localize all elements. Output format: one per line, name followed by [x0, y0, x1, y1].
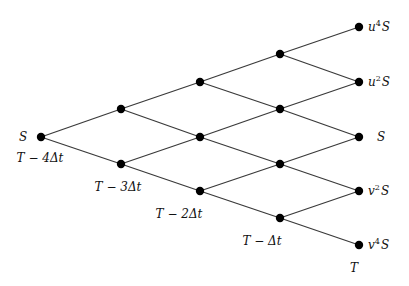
tree-edge — [200, 137, 280, 164]
tree-node-l2-0 — [196, 78, 204, 86]
tree-node-l2-2 — [196, 187, 204, 195]
tree-node-l3-0 — [276, 50, 284, 58]
tree-edge — [280, 82, 359, 109]
time-label: T — [350, 261, 359, 275]
terminal-value-label: u4S — [368, 19, 390, 34]
tree-edge — [200, 54, 280, 82]
time-label: T − 2Δt — [156, 207, 203, 221]
tree-node-l4-2 — [355, 133, 363, 141]
tree-edge — [200, 164, 280, 191]
tree-node-l4-4 — [355, 241, 363, 249]
tree-node-l2-1 — [196, 133, 204, 141]
terminal-labels: u4Su2SSv2Sv4S — [368, 19, 390, 252]
tree-edge — [280, 218, 359, 245]
root-label: S — [19, 130, 27, 144]
tree-edge — [121, 137, 200, 164]
tree-edge — [280, 27, 359, 54]
tree-edge — [280, 54, 359, 82]
tree-edge — [280, 137, 359, 164]
tree-node-l1-1 — [117, 160, 125, 168]
tree-edge — [200, 82, 280, 109]
tree-node-l3-1 — [276, 105, 284, 113]
tree-edge — [280, 109, 359, 137]
terminal-value-label: S — [377, 130, 385, 144]
time-label: T − 4Δt — [17, 151, 64, 165]
tree-node-l4-0 — [355, 23, 363, 31]
terminal-value-label: v4S — [368, 237, 389, 252]
tree-node-l4-3 — [355, 187, 363, 195]
tree-node-l3-2 — [276, 160, 284, 168]
time-label: T − 3Δt — [95, 180, 142, 194]
tree-edge — [200, 109, 280, 137]
tree-edge — [121, 109, 200, 137]
tree-node-l4-1 — [355, 78, 363, 86]
tree-node-l0-0 — [37, 133, 45, 141]
time-label: T − Δt — [242, 234, 281, 248]
tree-edge — [200, 191, 280, 218]
time-labels: T − 4ΔtT − 3ΔtT − 2ΔtT − ΔtT — [17, 151, 359, 275]
binomial-tree-diagram: S T − 4ΔtT − 3ΔtT − 2ΔtT − ΔtT u4Su2SSv2… — [0, 0, 409, 286]
tree-edge — [41, 109, 121, 137]
terminal-value-label: v2S — [368, 183, 389, 198]
tree-node-l3-3 — [276, 214, 284, 222]
terminal-value-label: u2S — [368, 74, 390, 89]
tree-edge — [121, 82, 200, 109]
tree-edge — [280, 191, 359, 218]
tree-node-l1-0 — [117, 105, 125, 113]
tree-edge — [280, 164, 359, 191]
